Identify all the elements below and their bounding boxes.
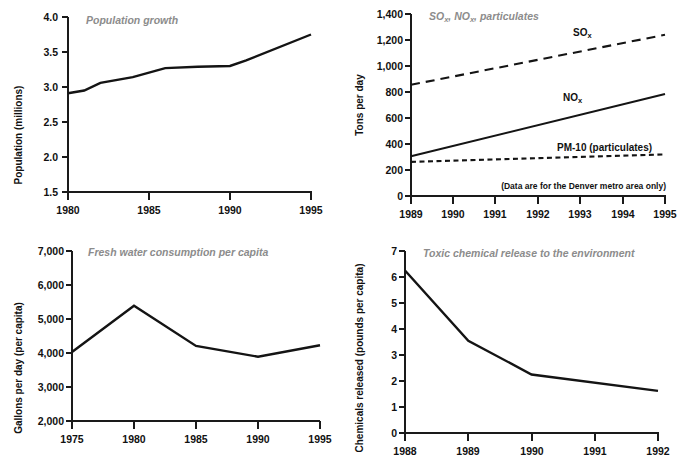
y-tick-label: 200: [385, 164, 403, 176]
y-tick-label: 2: [391, 375, 397, 387]
y-tick-label: 600: [385, 112, 403, 124]
x-tick-label: 1990: [218, 204, 242, 216]
x-tick-label: 1990: [441, 208, 465, 220]
y-tick-label: 6: [391, 271, 397, 283]
x-tick-label: 1985: [137, 204, 161, 216]
four-panel-line-chart-figure: Population (millions) 4.0 3.5 3.0 2.5 2.…: [0, 0, 681, 476]
y-tick-label: 3.5: [43, 46, 58, 58]
x-tick-label: 1980: [56, 204, 80, 216]
y-tick-label: 5: [391, 297, 397, 309]
x-tick-label: 1990: [246, 433, 270, 445]
x-tick-label: 1992: [646, 445, 670, 457]
y-tick-label: 6,000: [38, 279, 64, 291]
x-tick-label: 1992: [526, 208, 550, 220]
fresh-water-chart: Gallons per day (per capita) 7,000 6,000…: [0, 238, 340, 476]
axes: [68, 17, 312, 192]
y-tick-label: 1,000: [377, 60, 403, 72]
y-tick-label: 7,000: [38, 245, 64, 257]
data-series-pm10: [411, 154, 665, 162]
population-growth-chart: Population (millions) 4.0 3.5 3.0 2.5 2.…: [0, 0, 340, 238]
y-tick-label: 4.0: [43, 11, 58, 23]
x-tick-label: 1980: [122, 433, 146, 445]
emissions-chart: Tons per day 1,400 1,200 1,000 800 600 4…: [341, 0, 681, 238]
x-tick-label: 1989: [399, 208, 423, 220]
y-tick-label: 2,000: [38, 415, 64, 427]
y-axis-label: Population (millions): [13, 86, 24, 185]
axes: [411, 14, 666, 196]
y-tick-label: 4: [391, 323, 397, 335]
y-tick-label: 2.5: [43, 116, 58, 128]
panel-emissions: Tons per day 1,400 1,200 1,000 800 600 4…: [341, 0, 681, 238]
y-tick-label: 1,200: [377, 34, 403, 46]
data-series-fresh-water: [72, 306, 320, 357]
panel-title: SOx, NOx, particulates: [429, 10, 539, 24]
y-tick-label: 400: [385, 138, 403, 150]
axes: [405, 251, 659, 433]
y-axis-label: Tons per day: [354, 74, 365, 136]
y-tick-label: 2.0: [43, 151, 58, 163]
series-label-sox: SOx: [573, 27, 592, 40]
panel-title: Toxic chemical release to the environmen…: [423, 247, 635, 259]
y-axis-label: Gallons per day (per capita): [13, 302, 24, 434]
axes: [72, 251, 320, 421]
data-series-population: [68, 35, 311, 94]
series-label-nox: NOx: [563, 92, 583, 105]
y-tick-label: 1,400: [377, 8, 403, 20]
x-tick-label: 1994: [611, 208, 635, 220]
y-tick-label: 4,000: [38, 347, 64, 359]
panel-title: Fresh water consumption per capita: [88, 246, 268, 258]
y-tick-label: 0: [391, 427, 397, 439]
y-tick-label: 800: [385, 86, 403, 98]
x-tick-label: 1990: [520, 445, 544, 457]
x-tick-label: 1995: [299, 204, 323, 216]
x-tick-label: 1995: [308, 433, 332, 445]
x-tick-label: 1995: [653, 208, 677, 220]
x-tick-label: 1988: [393, 445, 417, 457]
y-tick-label: 1.5: [43, 186, 58, 198]
toxic-release-chart: Chemicals released (pounds per capita) 7…: [341, 238, 681, 476]
y-tick-label: 3.0: [43, 81, 58, 93]
x-tick-label: 1993: [568, 208, 592, 220]
x-tick-label: 1975: [60, 433, 84, 445]
panel-toxic-release: Chemicals released (pounds per capita) 7…: [341, 238, 681, 476]
y-tick-label: 5,000: [38, 313, 64, 325]
panel-population-growth: Population (millions) 4.0 3.5 3.0 2.5 2.…: [0, 0, 340, 238]
data-series-toxic-release: [405, 271, 658, 391]
y-tick-label: 3: [391, 349, 397, 361]
x-tick-label: 1991: [583, 445, 607, 457]
series-label-pm10: PM-10 (particulates): [557, 142, 652, 153]
y-tick-label: 0: [397, 190, 403, 202]
y-tick-label: 3,000: [38, 381, 64, 393]
panel-title: Population growth: [86, 14, 178, 26]
x-tick-label: 1991: [483, 208, 507, 220]
y-tick-label: 1: [391, 401, 397, 413]
y-tick-label: 7: [391, 245, 397, 257]
panel-fresh-water: Gallons per day (per capita) 7,000 6,000…: [0, 238, 340, 476]
data-series-sox: [411, 35, 665, 85]
y-axis-label: Chemicals released (pounds per capita): [354, 264, 365, 453]
data-source-note: (Data are for the Denver metro area only…: [501, 181, 666, 191]
x-tick-label: 1985: [184, 433, 208, 445]
x-tick-label: 1989: [456, 445, 480, 457]
